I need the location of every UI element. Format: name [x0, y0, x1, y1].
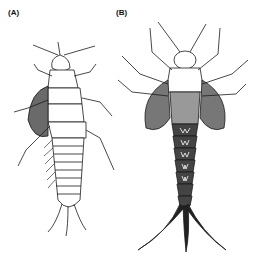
insect-b-drawing — [0, 0, 254, 258]
figure: (A) (B) — [0, 0, 254, 258]
